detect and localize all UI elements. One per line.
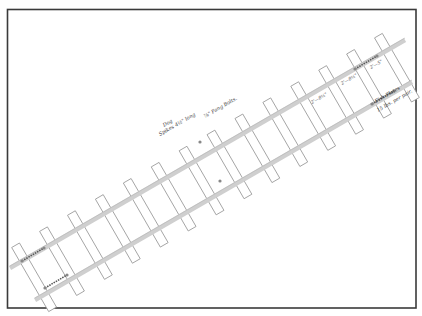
lower-rail-edge xyxy=(35,80,412,298)
bolt-icon xyxy=(218,179,221,182)
fang-bolts-label: ⅞" Fang Bolts. xyxy=(203,95,239,120)
track-drawing: Dog Spikes 4½" long ⅞" Fang Bolts. Fish … xyxy=(0,0,422,316)
upper-rail-edge xyxy=(10,38,405,266)
upper-rail xyxy=(10,40,405,268)
bolt-icon xyxy=(353,67,356,70)
bolt-icon xyxy=(370,102,373,105)
bolt-icon xyxy=(375,54,378,57)
bolt-icon xyxy=(43,286,46,289)
lower-rail xyxy=(35,82,412,300)
bolt-icon xyxy=(65,273,68,276)
bolt-icon xyxy=(20,259,23,262)
bolt-icon xyxy=(42,246,45,249)
bolt-icon xyxy=(198,140,201,143)
ties-group xyxy=(12,33,420,311)
